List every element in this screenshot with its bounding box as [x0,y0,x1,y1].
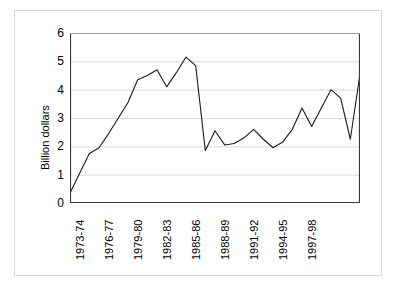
y-axis-tick-labels: 0123456 [36,0,64,288]
x-tick-label: 1994-95 [277,220,289,260]
x-tick-label: 1991-92 [248,220,260,260]
y-tick-label: 2 [36,140,64,152]
x-tick-label: 1973-74 [74,220,86,260]
gridlines [70,62,360,175]
x-tick-label: 1976-77 [103,220,115,260]
x-axis-tick-labels: 1973-741976-771979-801982-831985-861988-… [70,208,360,288]
y-tick-label: 5 [36,55,64,67]
x-tick-label: 1985-86 [190,220,202,260]
chart-svg [70,33,360,203]
y-tick-label: 0 [36,197,64,209]
plot-area [70,33,360,203]
y-tick-label: 3 [36,112,64,124]
chart-container: Billion dollars 0123456 1973-741976-7719… [0,0,398,288]
x-tick-label: 1997-98 [306,220,318,260]
data-series-line [70,57,360,193]
y-tick-label: 1 [36,169,64,181]
x-tick-label: 1979-80 [132,220,144,260]
x-tick-label: 1988-89 [219,220,231,260]
y-tick-label: 6 [36,27,64,39]
x-tick-label: 1982-83 [161,220,173,260]
y-tick-label: 4 [36,84,64,96]
